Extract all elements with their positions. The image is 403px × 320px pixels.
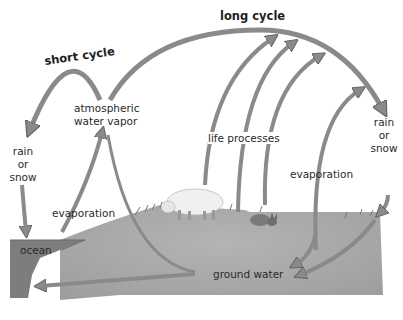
long-cycle-label: long cycle: [220, 10, 285, 22]
life-process-arrow-3: [265, 56, 320, 205]
rain-left-label-3: snow: [8, 171, 38, 183]
rain-right-label-3: snow: [366, 142, 402, 154]
ground-water-label: ground water: [213, 268, 283, 280]
life-processes-label: life processes: [208, 132, 280, 144]
atmospheric-label-line2: water vapor: [74, 115, 134, 127]
rain-right-arrow: [380, 195, 388, 213]
ground: [60, 205, 383, 300]
diagram-canvas: [0, 0, 403, 320]
water-cycle-diagram: short cycle long cycle atmospheric water…: [0, 0, 403, 320]
rain-left-label-2: or: [8, 158, 38, 170]
rain-right-label-2: or: [366, 129, 402, 141]
evaporation-right-label: evaporation: [290, 168, 353, 180]
rain-left-label-1: rain: [8, 145, 38, 157]
long-cycle-arrow: [110, 30, 383, 110]
atmospheric-label-line1: atmospheric: [74, 102, 134, 114]
rain-right-label-1: rain: [366, 116, 402, 128]
evaporation-left-label: evaporation: [52, 207, 115, 219]
ocean-label: ocean: [20, 244, 52, 256]
rain-left-arrow: [22, 185, 26, 232]
